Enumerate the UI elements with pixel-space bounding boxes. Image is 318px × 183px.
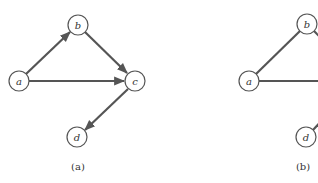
svg-text:b: b: [304, 19, 310, 30]
svg-text:a: a: [246, 76, 252, 87]
svg-text:d: d: [74, 132, 80, 143]
graph-figure: a b c d (a) a b d: [0, 0, 318, 183]
edge-b-c: [314, 31, 318, 47]
edge-a-b: [26, 32, 70, 74]
svg-text:b: b: [75, 20, 81, 31]
caption-b: (b): [296, 161, 310, 172]
svg-text:d: d: [303, 132, 309, 143]
edge-c-d: [85, 89, 128, 130]
node-c: c: [125, 71, 145, 91]
edge-c-d: [313, 112, 318, 130]
node-a: a: [9, 71, 29, 91]
svg-text:c: c: [132, 76, 138, 87]
node-a: a: [239, 71, 259, 91]
node-b: b: [297, 14, 317, 34]
node-d: d: [67, 127, 87, 147]
node-d: d: [296, 127, 316, 147]
edge-a-b: [256, 31, 300, 74]
edge-b-c: [85, 32, 127, 73]
node-b: b: [68, 15, 88, 35]
panel-a: a b c d (a): [9, 15, 145, 172]
svg-text:a: a: [16, 76, 22, 87]
caption-a: (a): [71, 161, 85, 172]
panel-b: a b d (b): [239, 14, 318, 172]
